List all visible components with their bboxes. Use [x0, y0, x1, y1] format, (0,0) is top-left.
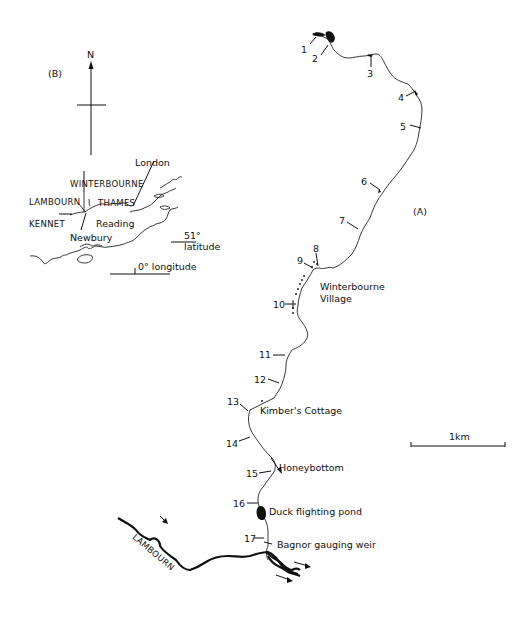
main-map-a: (A) — [118, 31, 505, 583]
honeybottom-label: Honeybottom — [279, 462, 344, 473]
inset-kennet-river — [70, 212, 85, 215]
thames-label: THAMES — [97, 198, 135, 208]
site-number-5: 5 — [400, 121, 406, 132]
village-ditch-marks — [261, 261, 318, 402]
site-number-4: 4 — [398, 92, 404, 103]
scale-bar-label: 1km — [449, 431, 470, 442]
source-pool-2 — [326, 31, 335, 42]
site-number-7: 7 — [339, 215, 345, 226]
essex-coast — [160, 177, 182, 188]
latitude-word-label: latitude — [184, 241, 221, 252]
reading-label: Reading — [96, 218, 135, 229]
winterbourne-village-label-line2: Village — [320, 293, 352, 304]
site-number-16: 16 — [233, 498, 245, 509]
duck-flighting-pond-label: Duck flighting pond — [269, 506, 362, 517]
duck-flighting-pond-shape — [257, 506, 267, 520]
river-map-figure: (B) N London WINTERBOURNE LA — [0, 0, 530, 622]
site-number-3: 3 — [367, 68, 373, 79]
site-number-14: 14 — [226, 438, 238, 449]
pool-site-4 — [414, 90, 418, 96]
site-number-8: 8 — [313, 243, 319, 254]
site-number-11: 11 — [259, 349, 271, 360]
kimbers-cottage-label: Kimber's Cottage — [260, 405, 342, 416]
scale-bar — [411, 442, 505, 447]
site-number-13: 13 — [227, 396, 239, 407]
kennet-label: KENNET — [29, 219, 66, 229]
london-label: London — [135, 157, 170, 168]
source-pool-1 — [312, 32, 326, 36]
site-number-12: 12 — [254, 374, 266, 385]
longitude-label: 0° longitude — [138, 261, 197, 272]
bagnor-gauging-weir-label: Bagnor gauging weir — [277, 539, 376, 550]
site-number-2: 2 — [312, 53, 318, 64]
site-number-17: 17 — [244, 533, 256, 544]
site-number-15: 15 — [246, 468, 258, 479]
newbury-leader — [81, 213, 86, 230]
site-number-6: 6 — [361, 176, 367, 187]
lambourn-label: LAMBOURN — [29, 197, 80, 207]
panel-a-label: (A) — [413, 206, 427, 217]
panel-b-label: (B) — [48, 68, 62, 79]
latitude-value-label: 51° — [184, 230, 201, 241]
inset-pang-stream — [89, 199, 90, 206]
site-number-1: 1 — [301, 44, 307, 55]
inset-map-b: (B) N London WINTERBOURNE LA — [29, 49, 221, 274]
winterbourne-village-label-line1: Winterbourne — [320, 281, 385, 292]
lambourn-flow-arrow-lower-icon — [276, 575, 293, 583]
newbury-label: Newbury — [70, 232, 113, 243]
north-label: N — [87, 49, 94, 60]
isle-of-wight — [77, 255, 92, 263]
site-number-10: 10 — [273, 299, 285, 310]
lambourn-flow-arrow-upstream-icon — [160, 516, 168, 524]
thames-estuary-islands — [154, 194, 170, 209]
site-number-9: 9 — [297, 255, 303, 266]
north-arrow-icon — [77, 61, 106, 155]
winterbourne-label: WINTERBOURNE — [70, 179, 144, 189]
